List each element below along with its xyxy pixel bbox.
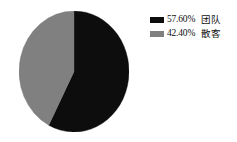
legend-item-team[interactable]: 57.60% 团队 xyxy=(150,13,237,26)
legend-label-team: 团队 xyxy=(201,14,221,25)
legend-percent-team: 57.60% xyxy=(167,14,195,25)
legend-percent-individual: 42.40% xyxy=(167,28,195,39)
pie-svg xyxy=(19,11,129,132)
pie-chart-figure: 57.60% 团队 42.40% 散客 xyxy=(0,0,237,142)
pie-chart-graphic xyxy=(19,11,129,132)
legend-swatch-black-icon xyxy=(150,17,164,23)
chart-legend: 57.60% 团队 42.40% 散客 xyxy=(150,13,237,41)
legend-label-individual: 散客 xyxy=(201,28,221,39)
legend-swatch-gray-icon xyxy=(150,31,164,37)
legend-item-individual[interactable]: 42.40% 散客 xyxy=(150,27,237,40)
